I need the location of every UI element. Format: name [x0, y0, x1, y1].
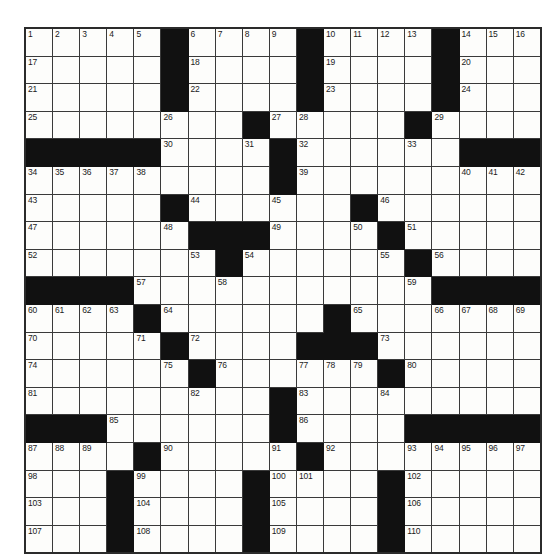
crossword-cell[interactable]	[486, 111, 513, 139]
crossword-cell[interactable]: 12	[378, 28, 405, 56]
crossword-cell[interactable]	[107, 332, 134, 360]
crossword-cell[interactable]	[161, 166, 188, 194]
crossword-cell[interactable]	[513, 84, 541, 112]
crossword-cell[interactable]: 24	[459, 84, 486, 112]
crossword-cell[interactable]: 36	[80, 166, 107, 194]
crossword-cell[interactable]	[351, 525, 378, 553]
crossword-cell[interactable]	[459, 470, 486, 498]
crossword-cell[interactable]	[432, 139, 459, 167]
crossword-cell[interactable]	[351, 249, 378, 277]
crossword-cell[interactable]	[432, 470, 459, 498]
crossword-cell[interactable]	[242, 415, 269, 443]
crossword-cell[interactable]	[215, 470, 242, 498]
crossword-cell[interactable]	[53, 222, 80, 250]
crossword-cell[interactable]: 108	[134, 525, 161, 553]
crossword-cell[interactable]: 104	[134, 498, 161, 526]
crossword-cell[interactable]: 105	[269, 498, 296, 526]
crossword-cell[interactable]	[107, 194, 134, 222]
crossword-cell[interactable]: 50	[351, 222, 378, 250]
crossword-cell[interactable]: 33	[405, 139, 432, 167]
crossword-cell[interactable]: 58	[215, 277, 242, 305]
crossword-cell[interactable]	[80, 470, 107, 498]
crossword-cell[interactable]: 76	[215, 360, 242, 388]
crossword-cell[interactable]: 9	[269, 28, 296, 56]
crossword-cell[interactable]	[107, 360, 134, 388]
crossword-cell[interactable]	[134, 360, 161, 388]
crossword-cell[interactable]	[215, 111, 242, 139]
crossword-cell[interactable]: 96	[486, 442, 513, 470]
crossword-cell[interactable]	[242, 442, 269, 470]
crossword-cell[interactable]	[161, 249, 188, 277]
crossword-cell[interactable]	[513, 387, 541, 415]
crossword-cell[interactable]: 63	[107, 304, 134, 332]
crossword-cell[interactable]	[432, 222, 459, 250]
crossword-cell[interactable]: 49	[269, 222, 296, 250]
crossword-cell[interactable]	[432, 166, 459, 194]
crossword-cell[interactable]: 93	[405, 442, 432, 470]
crossword-cell[interactable]	[405, 84, 432, 112]
crossword-cell[interactable]	[269, 277, 296, 305]
crossword-cell[interactable]	[134, 249, 161, 277]
crossword-cell[interactable]	[215, 525, 242, 553]
crossword-cell[interactable]	[486, 84, 513, 112]
crossword-cell[interactable]	[269, 84, 296, 112]
crossword-cell[interactable]: 62	[80, 304, 107, 332]
crossword-cell[interactable]	[405, 304, 432, 332]
crossword-cell[interactable]	[269, 360, 296, 388]
crossword-cell[interactable]: 21	[25, 84, 53, 112]
crossword-cell[interactable]: 68	[486, 304, 513, 332]
crossword-cell[interactable]	[269, 56, 296, 84]
crossword-cell[interactable]: 71	[134, 332, 161, 360]
crossword-cell[interactable]	[269, 249, 296, 277]
crossword-cell[interactable]: 2	[53, 28, 80, 56]
crossword-cell[interactable]	[215, 194, 242, 222]
crossword-cell[interactable]	[378, 139, 405, 167]
crossword-cell[interactable]	[324, 387, 351, 415]
crossword-cell[interactable]	[161, 470, 188, 498]
crossword-cell[interactable]	[188, 415, 215, 443]
crossword-cell[interactable]	[53, 470, 80, 498]
crossword-cell[interactable]	[405, 166, 432, 194]
crossword-cell[interactable]	[242, 332, 269, 360]
crossword-cell[interactable]: 83	[296, 387, 323, 415]
crossword-cell[interactable]: 86	[296, 415, 323, 443]
crossword-cell[interactable]: 98	[25, 470, 53, 498]
crossword-cell[interactable]	[242, 84, 269, 112]
crossword-cell[interactable]: 90	[161, 442, 188, 470]
crossword-cell[interactable]	[405, 332, 432, 360]
crossword-cell[interactable]: 4	[107, 28, 134, 56]
crossword-cell[interactable]	[296, 304, 323, 332]
crossword-cell[interactable]	[432, 332, 459, 360]
crossword-cell[interactable]	[161, 498, 188, 526]
crossword-cell[interactable]	[351, 498, 378, 526]
crossword-cell[interactable]: 40	[459, 166, 486, 194]
crossword-cell[interactable]: 95	[459, 442, 486, 470]
crossword-cell[interactable]	[80, 111, 107, 139]
crossword-cell[interactable]	[134, 415, 161, 443]
crossword-cell[interactable]	[188, 525, 215, 553]
crossword-cell[interactable]	[351, 84, 378, 112]
crossword-cell[interactable]	[269, 332, 296, 360]
crossword-cell[interactable]: 92	[324, 442, 351, 470]
crossword-cell[interactable]	[486, 222, 513, 250]
crossword-cell[interactable]	[161, 415, 188, 443]
crossword-cell[interactable]: 41	[486, 166, 513, 194]
crossword-cell[interactable]: 25	[25, 111, 53, 139]
crossword-cell[interactable]	[242, 166, 269, 194]
crossword-cell[interactable]	[324, 525, 351, 553]
crossword-cell[interactable]: 61	[53, 304, 80, 332]
crossword-cell[interactable]	[80, 84, 107, 112]
crossword-cell[interactable]	[53, 332, 80, 360]
crossword-cell[interactable]: 70	[25, 332, 53, 360]
crossword-cell[interactable]: 97	[513, 442, 541, 470]
crossword-cell[interactable]: 16	[513, 28, 541, 56]
crossword-cell[interactable]: 17	[25, 56, 53, 84]
crossword-cell[interactable]	[513, 194, 541, 222]
crossword-cell[interactable]: 60	[25, 304, 53, 332]
crossword-cell[interactable]	[351, 166, 378, 194]
crossword-cell[interactable]	[513, 222, 541, 250]
crossword-cell[interactable]	[486, 249, 513, 277]
crossword-cell[interactable]	[513, 525, 541, 553]
crossword-cell[interactable]	[351, 470, 378, 498]
crossword-cell[interactable]	[215, 332, 242, 360]
